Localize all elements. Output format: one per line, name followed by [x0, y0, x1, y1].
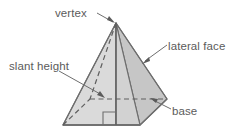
label-slant-height: slant height — [9, 60, 69, 73]
label-base: base — [172, 105, 197, 118]
pyramid-diagram-canvas: vertex lateral face slant height base — [0, 0, 235, 138]
label-vertex: vertex — [55, 7, 87, 20]
label-lateral-face: lateral face — [168, 40, 225, 53]
leader-arrow-lateral-face — [142, 57, 150, 64]
leader-arrow-vertex — [107, 16, 115, 23]
